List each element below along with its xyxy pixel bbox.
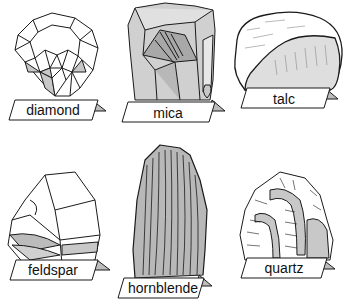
label-mica: mica bbox=[137, 106, 199, 120]
label-hornblende: hornblende bbox=[127, 281, 199, 295]
label-talc: talc bbox=[253, 92, 315, 106]
talc-illustration bbox=[225, 0, 347, 130]
label-feldspar: feldspar bbox=[22, 263, 84, 277]
label-diamond: diamond bbox=[22, 103, 84, 117]
mineral-mica: mica bbox=[115, 0, 225, 140]
label-quartz: quartz bbox=[253, 261, 315, 275]
quartz-illustration bbox=[225, 160, 347, 300]
mineral-quartz: quartz bbox=[225, 160, 347, 300]
mineral-talc: talc bbox=[225, 0, 347, 130]
mineral-diamond: diamond bbox=[0, 0, 115, 130]
mineral-feldspar: feldspar bbox=[0, 160, 115, 300]
mineral-hornblende: hornblende bbox=[115, 140, 225, 308]
feldspar-illustration bbox=[0, 160, 115, 300]
